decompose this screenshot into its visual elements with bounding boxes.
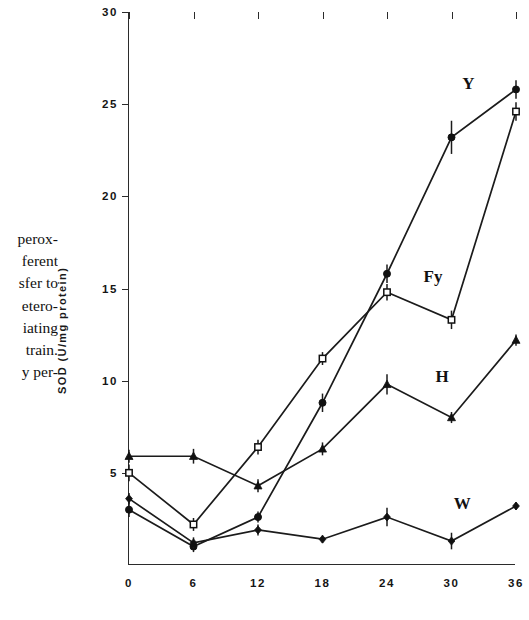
data-point: [383, 380, 391, 387]
series-label-H: H: [435, 367, 448, 387]
series-Y: [126, 80, 520, 552]
data-point: [448, 317, 454, 323]
y-tick-label: 15: [58, 283, 129, 295]
data-point: [512, 336, 520, 343]
y-tick-mark: [122, 104, 129, 105]
y-tick-label: 10: [58, 375, 129, 387]
series-label-Y: Y: [462, 74, 474, 94]
y-tick-mark: [122, 12, 129, 13]
data-point: [384, 513, 391, 521]
data-point: [255, 444, 261, 450]
data-point: [448, 537, 455, 545]
sod-activity-line-chart: SOD (U/mg protein) 30252015105 061218243…: [0, 0, 529, 620]
data-point: [319, 399, 326, 406]
data-point: [319, 535, 326, 543]
y-tick-label: 25: [58, 98, 129, 110]
series-label-Fy: Fy: [424, 267, 443, 287]
y-tick-label: 30: [58, 6, 129, 18]
series-line: [129, 112, 516, 525]
data-point: [126, 506, 133, 513]
series-layer: [129, 12, 529, 575]
data-point: [384, 270, 391, 277]
y-tick-mark: [122, 381, 129, 382]
series-Fy: [126, 102, 519, 531]
data-point: [319, 355, 325, 361]
y-axis-title: SOD (U/mg protein): [52, 136, 74, 396]
data-point: [448, 134, 455, 141]
plot-area: 30252015105 061218243036 YFyHW: [128, 12, 515, 565]
data-point: [255, 526, 262, 534]
series-line: [129, 89, 516, 546]
series-label-W: W: [454, 494, 471, 514]
data-point: [513, 108, 519, 114]
data-point: [126, 495, 133, 503]
data-point: [190, 521, 196, 527]
data-point: [255, 514, 262, 521]
data-point: [513, 502, 520, 510]
y-tick-label: 20: [58, 190, 129, 202]
data-point: [513, 86, 520, 93]
y-tick-mark: [122, 289, 129, 290]
y-tick-mark: [122, 196, 129, 197]
data-point: [126, 470, 132, 476]
data-point: [384, 289, 390, 295]
y-tick-label: 5: [58, 467, 129, 479]
